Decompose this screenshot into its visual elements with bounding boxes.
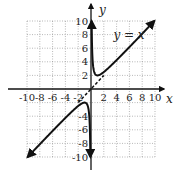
x-tick-label: 8: [139, 92, 145, 103]
x-tick-label: -2: [73, 92, 83, 103]
y-tick-label: 4: [82, 56, 88, 67]
y-tick-label: 8: [82, 29, 88, 40]
x-tick-label: -8: [35, 92, 45, 103]
x-axis-label: x: [166, 92, 173, 106]
x-tick-label: -4: [61, 92, 71, 103]
y-tick-label: -6: [78, 124, 88, 135]
x-tick-label: -6: [48, 92, 58, 103]
y-tick-label: 10: [75, 16, 88, 27]
y-tick-label: -4: [78, 111, 88, 122]
x-tick-label: -10: [19, 92, 35, 103]
y-axis-label: y: [98, 3, 106, 17]
x-tick-label: 10: [149, 92, 162, 103]
y-tick-label: -8: [78, 138, 88, 149]
asymptote-label: y = x: [112, 28, 144, 42]
x-tick-label: 6: [126, 92, 132, 103]
y-tick-label: 6: [82, 43, 88, 54]
y-tick-label: 2: [82, 70, 88, 81]
function-graph: -10-8-6-4-2246810108642-4-6-8-10 y = x x…: [0, 0, 177, 177]
x-tick-label: 2: [101, 92, 107, 103]
y-tick-label: -10: [72, 152, 88, 163]
x-tick-label: 4: [113, 92, 119, 103]
